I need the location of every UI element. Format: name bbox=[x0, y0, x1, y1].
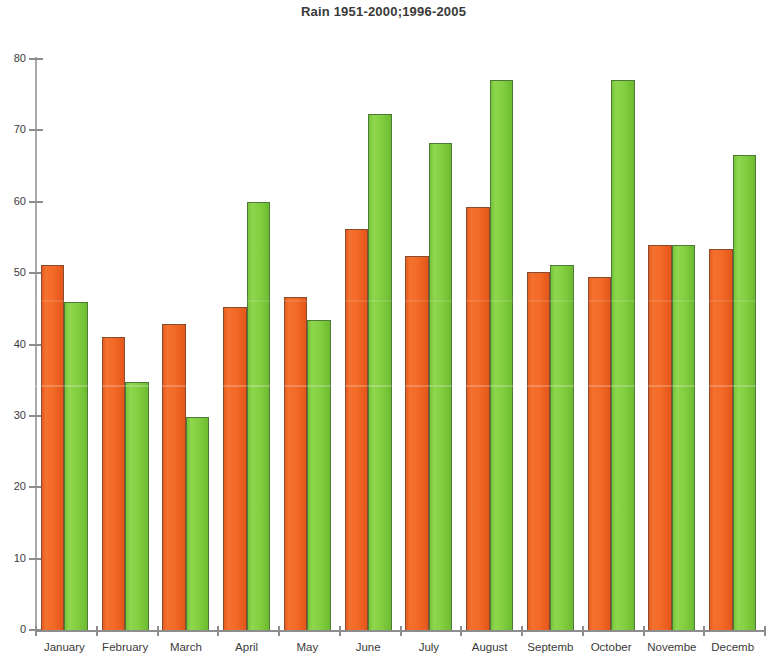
x-axis-label-august: August bbox=[472, 641, 508, 653]
bar-april-series-2 bbox=[247, 202, 271, 630]
y-axis-tick-label: 20 bbox=[0, 480, 26, 492]
x-axis-label-septemb: Septemb bbox=[527, 641, 573, 653]
y-axis-tick-label: 40 bbox=[0, 338, 26, 350]
y-axis-tick-label: 70 bbox=[0, 123, 26, 135]
chart-title: Rain 1951-2000;1996-2005 bbox=[0, 4, 767, 19]
bar-decemb-series-2 bbox=[733, 155, 757, 630]
bar-february-series-2 bbox=[125, 382, 149, 630]
bars-layer bbox=[36, 59, 767, 630]
x-axis-label-march: March bbox=[170, 641, 202, 653]
x-axis-label-may: May bbox=[297, 641, 319, 653]
x-axis-label-decemb: Decemb bbox=[711, 641, 754, 653]
bar-decemb-series-1 bbox=[709, 249, 733, 630]
y-axis-tick-label: 10 bbox=[0, 552, 26, 564]
rain-bar-chart: Rain 1951-2000;1996-2005 010203040506070… bbox=[0, 0, 767, 663]
bar-june-series-1 bbox=[345, 229, 369, 630]
y-axis-tick-label: 0 bbox=[0, 623, 26, 635]
bar-february-series-1 bbox=[102, 337, 126, 630]
bar-january-series-1 bbox=[41, 265, 65, 630]
x-axis-label-april: April bbox=[235, 641, 258, 653]
bar-october-series-2 bbox=[611, 80, 635, 630]
y-axis-tick-label: 60 bbox=[0, 195, 26, 207]
bar-august-series-2 bbox=[490, 80, 514, 630]
bar-june-series-2 bbox=[368, 114, 392, 630]
bar-septemb-series-2 bbox=[550, 265, 574, 630]
bar-novembe-series-1 bbox=[648, 245, 672, 630]
bar-septemb-series-1 bbox=[527, 272, 551, 630]
bar-march-series-1 bbox=[162, 324, 186, 630]
bar-april-series-1 bbox=[223, 307, 247, 630]
x-axis-label-january: January bbox=[44, 641, 85, 653]
y-axis-tick-label: 80 bbox=[0, 52, 26, 64]
bar-march-series-2 bbox=[186, 417, 210, 630]
bar-october-series-1 bbox=[588, 277, 612, 630]
bar-novembe-series-2 bbox=[672, 245, 696, 630]
bar-may-series-2 bbox=[307, 320, 331, 630]
y-axis-tick-label: 50 bbox=[0, 266, 26, 278]
bar-may-series-1 bbox=[284, 297, 308, 630]
x-axis-label-february: February bbox=[102, 641, 148, 653]
bar-july-series-2 bbox=[429, 143, 453, 630]
x-axis-label-july: July bbox=[419, 641, 439, 653]
bar-august-series-1 bbox=[466, 207, 490, 630]
x-axis-label-novembe: Novembe bbox=[647, 641, 696, 653]
bar-july-series-1 bbox=[405, 256, 429, 630]
y-axis-tick-label: 30 bbox=[0, 409, 26, 421]
x-axis-label-october: October bbox=[591, 641, 632, 653]
bar-january-series-2 bbox=[64, 302, 88, 630]
x-axis-label-june: June bbox=[356, 641, 381, 653]
